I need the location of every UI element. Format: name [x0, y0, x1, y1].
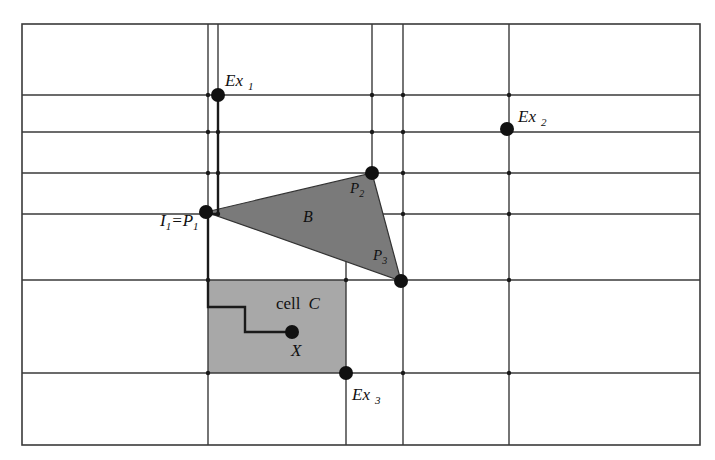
junction-dot: [401, 371, 405, 375]
junction-dot: [206, 371, 210, 375]
point-x-marker: [285, 325, 299, 339]
junction-dot: [401, 130, 405, 134]
spatial-grid-diagram: Ex1 Ex2 Ex3 I1=P1 P2 P3 B cellC X: [0, 0, 715, 460]
junction-dot: [344, 278, 348, 282]
junction-dot: [507, 212, 511, 216]
junction-dot: [206, 278, 210, 282]
point-p1-marker: [199, 205, 213, 219]
junction-dot: [401, 93, 405, 97]
point-p2-marker: [365, 166, 379, 180]
junction-dot: [206, 93, 210, 97]
triangle-b: [206, 173, 401, 281]
junction-dot: [216, 212, 220, 216]
junction-dot: [206, 171, 210, 175]
point-p3-marker: [394, 274, 408, 288]
junction-dot: [370, 93, 374, 97]
junction-dot: [370, 130, 374, 134]
junction-dot: [507, 278, 511, 282]
label-b: B: [303, 208, 313, 225]
junction-dot: [216, 130, 220, 134]
junction-dot: [507, 171, 511, 175]
point-ex3-marker: [339, 366, 353, 380]
label-i1-equals-p1: I1=P1: [159, 211, 199, 232]
triangle-b-obstacle: [206, 173, 401, 281]
junction-dot: [507, 93, 511, 97]
junction-dot: [216, 171, 220, 175]
label-ex2: Ex2: [517, 107, 547, 128]
point-ex1-marker: [211, 88, 225, 102]
junction-dot: [401, 212, 405, 216]
label-x: X: [290, 341, 302, 360]
label-ex1: Ex1: [224, 71, 253, 92]
label-cell-c: cellC: [276, 294, 321, 313]
point-ex2-marker: [500, 122, 514, 136]
path-ex1-to-p1: [208, 95, 218, 214]
junction-dot: [401, 171, 405, 175]
junction-dot: [206, 130, 210, 134]
label-ex3: Ex3: [351, 385, 381, 406]
junction-dot: [507, 371, 511, 375]
